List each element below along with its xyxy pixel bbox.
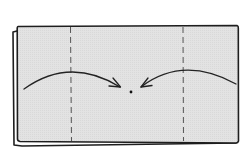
paper-sheet [17, 26, 238, 144]
origami-diagram: Fold both sides in to the center [0, 0, 245, 162]
center-point-icon [130, 91, 133, 94]
diagram-canvas [0, 0, 245, 162]
